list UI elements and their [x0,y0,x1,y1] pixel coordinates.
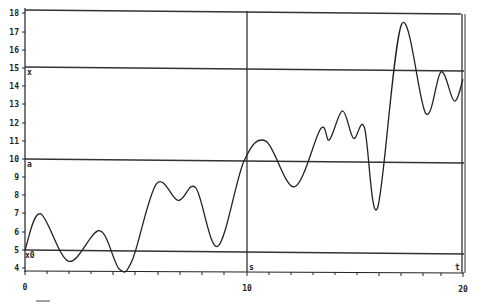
annotation-s: s [249,263,254,272]
svg-text:13: 13 [9,100,19,109]
x-tick-labels: 0 10 20 [23,283,468,294]
hline-x0 [25,250,464,254]
line-chart: 4 5 6 7 8 9 10 11 12 13 14 15 16 17 18 0… [0,0,478,302]
data-curve [25,22,463,272]
svg-text:17: 17 [9,28,19,37]
svg-text:10: 10 [9,155,19,164]
svg-text:5: 5 [14,246,19,255]
annotation-x0: x0 [25,251,35,260]
svg-text:20: 20 [458,285,468,294]
annotation-a: a [27,160,32,169]
svg-text:15: 15 [9,64,19,73]
hline-x [25,67,464,71]
svg-text:14: 14 [9,82,19,91]
annotation-t: t [455,263,460,272]
svg-text:4: 4 [14,264,19,273]
y-tick-labels: 4 5 6 7 8 9 10 11 12 13 14 15 16 17 18 [9,9,19,273]
top-border-line [25,10,461,14]
svg-text:18: 18 [9,9,19,18]
svg-text:6: 6 [14,228,19,237]
svg-text:10: 10 [242,284,252,293]
svg-text:8: 8 [14,191,19,200]
svg-text:16: 16 [9,46,19,55]
annotation-x: x [27,68,32,77]
svg-text:0: 0 [23,283,28,292]
svg-text:9: 9 [14,173,19,182]
svg-text:12: 12 [9,119,19,128]
svg-text:11: 11 [9,137,19,146]
svg-text:7: 7 [14,209,19,218]
